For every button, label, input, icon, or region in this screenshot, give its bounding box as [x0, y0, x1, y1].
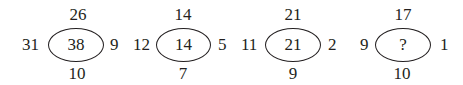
bottom-number: 10	[394, 65, 411, 82]
puzzle-group-4: 17 9 ? 1 10	[0, 0, 463, 85]
center-ellipse: ?	[375, 28, 431, 62]
top-number: 17	[395, 6, 412, 23]
left-number: 9	[360, 36, 369, 53]
right-number: 1	[440, 36, 449, 53]
center-question-mark: ?	[399, 35, 407, 55]
